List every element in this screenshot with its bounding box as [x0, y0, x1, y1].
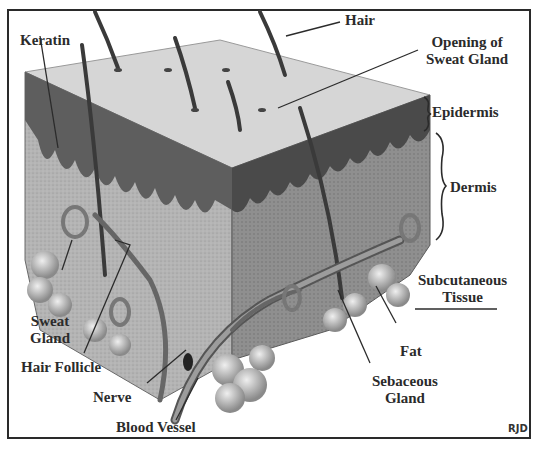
label-opening-line-2: Sweat Gland — [426, 51, 508, 68]
label-subcutaneous-line-2: Tissue — [418, 289, 507, 306]
label-opening-of-sweat-gland: Opening of Sweat Gland — [426, 34, 508, 68]
label-epidermis: Epidermis — [432, 104, 499, 121]
label-dermis: Dermis — [450, 179, 497, 196]
artist-signature: RJD — [508, 423, 528, 434]
label-keratin: Keratin — [20, 32, 70, 49]
label-subcutaneous-tissue: Subcutaneous Tissue — [418, 272, 507, 306]
label-sebaceous-line-2: Gland — [372, 390, 438, 407]
label-hair-follicle: Hair Follicle — [21, 359, 101, 376]
label-hair: Hair — [345, 12, 375, 29]
label-subcutaneous-line-1: Subcutaneous — [418, 272, 507, 289]
label-sweat-gland: Sweat Gland — [30, 313, 70, 347]
label-sebaceous-gland: Sebaceous Gland — [372, 373, 438, 407]
label-opening-line-1: Opening of — [426, 34, 508, 51]
label-fat: Fat — [400, 343, 422, 360]
label-sweat-gland-line-2: Gland — [30, 330, 70, 347]
label-nerve: Nerve — [93, 389, 131, 406]
label-blood-vessel: Blood Vessel — [116, 419, 196, 436]
skin-cross-section-illustration — [0, 0, 539, 454]
label-sebaceous-line-1: Sebaceous — [372, 373, 438, 390]
label-sweat-gland-line-1: Sweat — [30, 313, 70, 330]
